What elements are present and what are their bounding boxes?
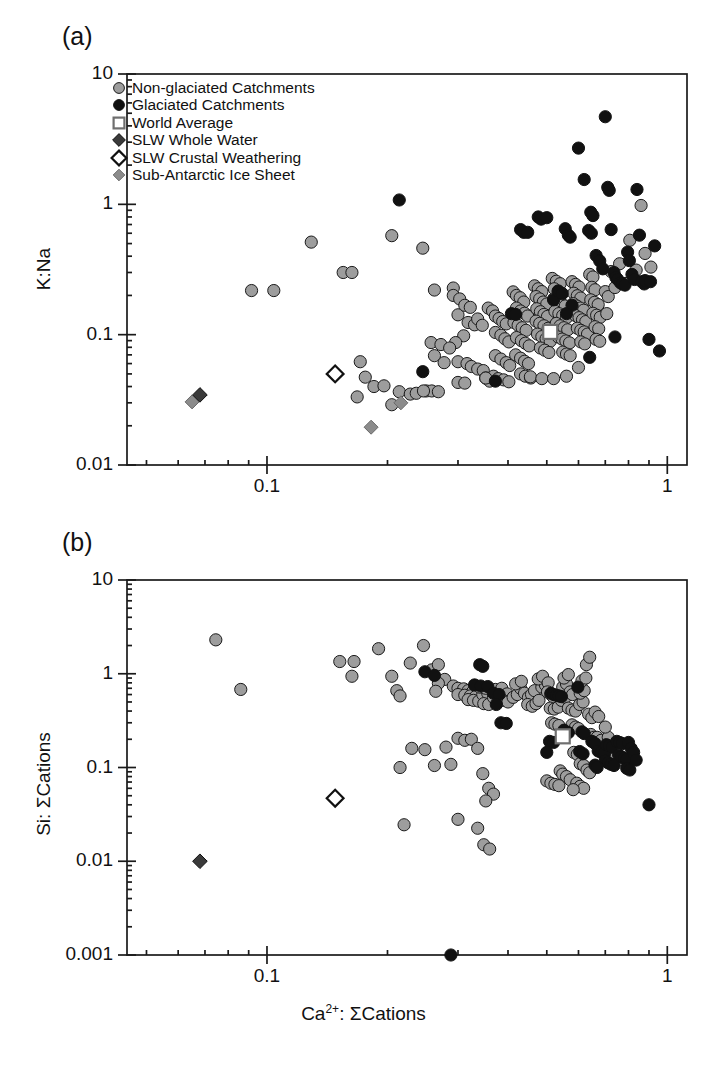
panel-a: (a) K:Na 0.010.11100.11 <box>0 0 727 520</box>
data-point-circle-black <box>587 209 599 221</box>
data-point-circle-gray <box>635 199 647 211</box>
circle-gray-icon <box>108 80 130 96</box>
data-point-circle-black <box>578 173 590 185</box>
legend-item: SLW Whole Water <box>108 132 315 150</box>
data-point-diamond-open <box>327 366 344 383</box>
data-point-circle-gray <box>417 385 429 397</box>
data-point-circle-gray <box>593 710 605 722</box>
data-point-circle-gray <box>428 759 440 771</box>
data-point-diamond-open <box>327 790 344 807</box>
data-point-circle-gray <box>536 373 548 385</box>
data-point-circle-gray <box>268 284 280 296</box>
legend-item: Glaciated Catchments <box>108 97 315 115</box>
diamond-gray-icon <box>108 167 130 183</box>
data-point-circle-gray <box>432 386 444 398</box>
data-point-circle-gray <box>348 655 360 667</box>
data-point-circle-black <box>428 669 440 681</box>
data-point-circle-black <box>585 227 597 239</box>
x-axis-tick-label: 0.1 <box>237 475 297 497</box>
legend: Non-glaciated Catchments Glaciated Catch… <box>108 79 315 184</box>
data-point-circle-gray <box>476 319 488 331</box>
y-axis-tick-label: 0.1 <box>51 756 113 778</box>
data-point-circle-gray <box>445 758 457 770</box>
data-point-circle-black <box>577 748 589 760</box>
y-axis-tick-label: 0.001 <box>51 943 113 965</box>
legend-item: Sub-Antarctic Ice Sheet <box>108 167 315 185</box>
data-point-circle-gray <box>334 655 346 667</box>
data-point-circle-gray <box>452 813 464 825</box>
data-point-circle-black <box>572 681 584 693</box>
x-axis-tick-label: 1 <box>637 475 697 497</box>
data-point-circle-black <box>597 263 609 275</box>
panel-b: (b) Si: ΣCations Ca2+: ΣCations 0.0010.0… <box>0 520 727 1065</box>
data-point-circle-gray <box>480 795 492 807</box>
data-point-circle-black <box>556 288 568 300</box>
data-point-circle-black <box>560 308 572 320</box>
data-point-circle-gray <box>572 361 584 373</box>
data-point-circle-gray <box>584 651 596 663</box>
data-point-circle-gray <box>562 668 574 680</box>
data-point-circle-gray <box>394 690 406 702</box>
panel-a-y-axis-title: K:Na <box>33 221 55 317</box>
data-point-circle-black <box>633 229 645 241</box>
data-point-circle-gray <box>305 236 317 248</box>
data-point-circle-gray <box>419 744 431 756</box>
y-axis-tick-label: 1 <box>51 192 113 214</box>
data-point-circle-gray <box>444 342 456 354</box>
data-point-circle-black <box>477 660 489 672</box>
x-axis-title: Ca2+: ΣCations <box>0 1002 727 1025</box>
data-point-circle-gray <box>599 721 611 733</box>
data-point-circle-gray <box>245 284 257 296</box>
diamond-dark-icon <box>108 132 130 148</box>
data-point-circle-gray <box>386 230 398 242</box>
data-point-circle-gray <box>459 377 471 389</box>
x-axis-title-superscript: 2+ <box>325 1002 339 1016</box>
data-point-circle-black <box>643 333 655 345</box>
data-point-circle-gray <box>601 308 613 320</box>
data-point-circle-black <box>599 111 611 123</box>
y-axis-tick-label: 0.01 <box>51 453 113 475</box>
data-point-circle-black <box>417 366 429 378</box>
data-point-circle-gray <box>438 357 450 369</box>
data-point-circle-gray <box>472 742 484 754</box>
y-axis-tick-label: 10 <box>51 568 113 590</box>
data-point-circle-gray <box>398 819 410 831</box>
data-point-circle-gray <box>477 768 489 780</box>
data-point-circle-black <box>624 764 636 776</box>
data-point-circle-gray <box>354 356 366 368</box>
data-point-circle-gray <box>524 371 536 383</box>
data-point-circle-black <box>603 184 615 196</box>
data-point-circle-gray <box>543 346 555 358</box>
data-point-circle-black <box>605 223 617 235</box>
data-point-circle-gray <box>464 301 476 313</box>
legend-item: Non-glaciated Catchments <box>108 79 315 97</box>
data-point-circle-black <box>609 331 621 343</box>
data-point-circle-black <box>623 255 635 267</box>
data-point-circle-gray <box>430 685 442 697</box>
data-point-circle-gray <box>346 670 358 682</box>
legend-item-label: Glaciated Catchments <box>130 96 285 114</box>
data-point-circle-gray <box>210 634 222 646</box>
data-point-diamond-dark <box>193 854 208 869</box>
data-point-square-open <box>556 729 570 743</box>
legend-item-label: SLW Crustal Weathering <box>130 149 301 167</box>
data-point-circle-black <box>541 746 553 758</box>
data-point-square-open <box>543 325 557 339</box>
data-point-circle-black <box>584 351 596 363</box>
data-point-circle-black <box>489 375 501 387</box>
data-point-circle-black <box>510 308 522 320</box>
data-point-circle-gray <box>393 386 405 398</box>
data-point-circle-black <box>522 226 534 238</box>
square-open-icon <box>108 115 130 131</box>
data-point-circle-gray <box>645 261 657 273</box>
legend-item-label: Non-glaciated Catchments <box>130 79 315 97</box>
data-point-circle-black <box>445 949 457 961</box>
data-point-circle-gray <box>235 683 247 695</box>
data-points-group <box>193 634 655 961</box>
legend-item-label: SLW Whole Water <box>130 131 258 149</box>
data-point-circle-gray <box>522 357 534 369</box>
data-point-circle-gray <box>548 373 560 385</box>
data-point-circle-gray <box>594 335 606 347</box>
data-point-circle-black <box>500 717 512 729</box>
legend-item: SLW Crustal Weathering <box>108 149 315 167</box>
